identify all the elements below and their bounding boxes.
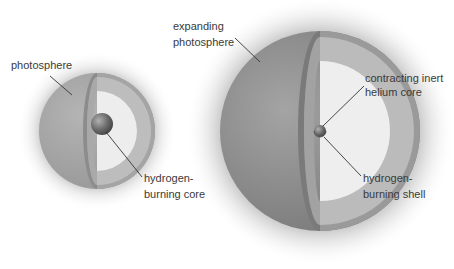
label-hydrogen-burning-shell: hydrogen- burning shell xyxy=(363,172,425,201)
label-helium-line1: contracting inert xyxy=(365,72,443,85)
label-expanding-line2: photosphere xyxy=(173,36,234,49)
label-photosphere: photosphere xyxy=(11,59,72,72)
label-shell-line2: burning shell xyxy=(363,188,425,201)
hydrogen-burning-core xyxy=(91,113,113,135)
label-core-line2: burning core xyxy=(144,188,205,201)
label-helium-line2: helium core xyxy=(365,86,443,99)
diagram-stage: photosphere hydrogen- burning core expan… xyxy=(0,0,454,269)
label-hydrogen-burning-core: hydrogen- burning core xyxy=(144,172,205,201)
label-photosphere-text: photosphere xyxy=(11,59,72,72)
label-shell-line1: hydrogen- xyxy=(363,172,425,185)
label-expanding-line1: expanding xyxy=(173,20,234,33)
label-expanding-photosphere: expanding photosphere xyxy=(173,20,234,49)
label-core-line1: hydrogen- xyxy=(144,172,205,185)
label-contracting-helium-core: contracting inert helium core xyxy=(365,72,443,99)
